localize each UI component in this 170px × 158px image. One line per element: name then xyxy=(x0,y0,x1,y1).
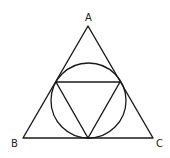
vertex-label-c: C xyxy=(156,138,163,149)
vertex-label-a: A xyxy=(85,12,92,23)
incircle xyxy=(51,63,126,138)
geometry-diagram: A B C xyxy=(0,0,170,158)
vertex-label-b: B xyxy=(11,138,18,149)
